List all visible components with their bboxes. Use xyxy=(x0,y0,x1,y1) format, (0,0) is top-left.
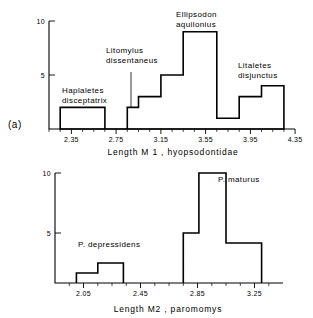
panel-a-label-haplaletes: Haplaletes disceptatrix xyxy=(62,86,107,105)
litaletes-line-2: disjunctus xyxy=(238,71,278,80)
histogram-figure: (a) 10 5 xyxy=(0,0,313,318)
panel-a-xtick-3: 3.15 xyxy=(153,136,168,143)
panel-a-plot: 10 5 xyxy=(0,0,313,160)
panel-a-xtick-2: 2.75 xyxy=(109,136,124,143)
ellipsodon-line-1: Ellipsodon xyxy=(176,10,217,19)
panel-a: (a) 10 5 xyxy=(0,0,313,160)
panel-a-label-litomylus: Litomylus dissentaneus xyxy=(106,46,158,65)
haplaletes-line-2: disceptatrix xyxy=(62,96,107,105)
panel-a-xtick-1: 2.35 xyxy=(64,136,79,143)
panel-b-xtick-1: 2.05 xyxy=(76,290,91,297)
panel-b-xtick-4: 3.25 xyxy=(247,290,262,297)
panel-b-xtick-3: 2.85 xyxy=(190,290,205,297)
panel-b-xaxis-title: Length M2 , paromomys xyxy=(114,304,222,314)
haplaletes-line-1: Haplaletes xyxy=(62,86,104,95)
panel-b-ytick-5: 5 xyxy=(47,230,51,237)
panel-a-label-litaletes: Litaletes disjunctus xyxy=(238,61,278,80)
ellipsodon-line-2: aquilonius xyxy=(176,20,216,29)
panel-a-label-ellipsodon: Ellipsodon aquilonius xyxy=(176,10,217,29)
panel-a-xtick-5: 3.95 xyxy=(243,136,258,143)
litomylus-line-2: dissentaneus xyxy=(106,56,158,65)
litomylus-line-1: Litomylus xyxy=(106,46,143,55)
panel-b-ytick-10: 10 xyxy=(43,170,51,177)
panel-a-xtick-4: 3.55 xyxy=(198,136,213,143)
panel-b-plot: 10 5 xyxy=(0,155,313,318)
panel-b-axes xyxy=(55,173,283,283)
panel-a-y-ticks xyxy=(49,21,55,75)
panel-b-label-maturus: P. maturus xyxy=(218,175,260,184)
panel-b-label-depressidens: P. depressidens xyxy=(78,240,140,249)
panel-a-xtick-6: 4.35 xyxy=(288,136,303,143)
panel-b: (b) 10 5 xyxy=(0,155,313,318)
litaletes-line-1: Litaletes xyxy=(238,61,271,70)
panel-b-histogram xyxy=(76,173,261,283)
panel-b-y-ticks xyxy=(55,173,61,233)
panel-a-ytick-10: 10 xyxy=(37,18,45,25)
panel-a-ytick-5: 5 xyxy=(41,72,45,79)
panel-b-xtick-2: 2.45 xyxy=(133,290,148,297)
panel-a-histogram xyxy=(60,32,284,129)
